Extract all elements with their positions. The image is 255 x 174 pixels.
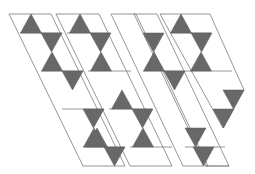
shaded-triangle-23 [185, 128, 206, 147]
shaded-triangle-22 [213, 109, 234, 128]
shaded-triangle-4 [62, 71, 83, 90]
shaded-triangle-21 [223, 90, 244, 109]
shaded-triangle-18 [171, 14, 192, 33]
shaded-triangle-10 [90, 33, 111, 52]
shaded-triangle-3 [42, 52, 63, 71]
shaded-triangle-15 [143, 33, 164, 52]
shaded-triangle-9 [70, 14, 91, 33]
shaded-triangle-8 [104, 147, 125, 166]
triangle-strip-diagram [0, 0, 255, 174]
shaded-triangle-19 [191, 33, 212, 52]
shaded-triangle-2 [41, 33, 62, 52]
shaded-triangles-layer [21, 14, 245, 166]
shaded-triangle-6 [83, 109, 104, 128]
shaded-triangle-12 [112, 90, 133, 109]
shaded-triangle-20 [191, 52, 212, 71]
shaded-triangle-14 [133, 128, 154, 147]
shaded-triangle-16 [144, 52, 165, 71]
shaded-triangle-1 [21, 14, 42, 33]
shaded-triangle-13 [132, 109, 153, 128]
shaded-triangle-11 [91, 52, 112, 71]
shaded-triangle-24 [193, 147, 214, 166]
